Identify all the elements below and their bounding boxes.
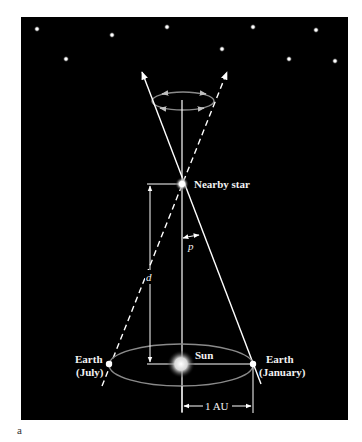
earth-july-label-line1: Earth [75, 353, 103, 365]
sun-label: Sun [195, 349, 213, 361]
background-star-icon [164, 24, 170, 30]
background-star-icon [313, 27, 319, 33]
background-star-icon [34, 26, 40, 32]
au-label: 1 AU [205, 400, 229, 412]
background-star-icon [286, 56, 292, 62]
sun-icon [167, 350, 195, 378]
background-star-icon [219, 46, 225, 52]
earth-july-label-line2: (July) [76, 366, 104, 379]
earth-january-label-line2: (January) [259, 366, 306, 379]
nearby-star-label: Nearby star [194, 178, 250, 190]
background-star-icon [63, 56, 69, 62]
parallax-diagram: d p 1 AU Sun Nearby star Earth (July) Ea… [0, 0, 362, 442]
parallax-angle-label: p [187, 240, 194, 252]
background-star-icon [109, 32, 115, 38]
nearby-star-icon [175, 177, 189, 191]
distance-label: d [146, 271, 152, 283]
figure-caption: a [17, 424, 22, 436]
earth-july-icon [106, 361, 112, 367]
background-star-icon [332, 58, 338, 64]
earth-january-label-line1: Earth [266, 353, 294, 365]
background-star-icon [250, 24, 256, 30]
earth-january-icon [250, 361, 256, 367]
